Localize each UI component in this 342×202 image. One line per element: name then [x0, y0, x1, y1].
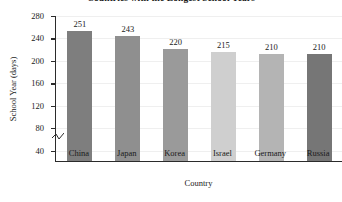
- x-axis-tick-label: Korea: [164, 148, 185, 158]
- gridline: [56, 16, 342, 17]
- gridline: [56, 38, 342, 39]
- bar: 243: [115, 36, 140, 161]
- x-axis-tick-label: Japan: [117, 148, 136, 158]
- y-axis-tick-label: 80: [36, 123, 45, 133]
- bar-value-label: 243: [121, 24, 134, 34]
- bar-value-label: 215: [217, 40, 230, 50]
- y-axis-tick: 40: [51, 151, 56, 152]
- y-axis-tick: 120: [51, 106, 56, 107]
- y-axis-tick-label: 120: [31, 101, 44, 111]
- y-axis-tick-label: 160: [31, 78, 44, 88]
- chart-title: Countries with the Longest School Years: [0, 0, 342, 3]
- bar: 220: [163, 49, 188, 161]
- bar-value-label: 210: [265, 42, 278, 52]
- gridline: [56, 106, 342, 107]
- gridline: [56, 151, 342, 152]
- y-axis-tick-label: 240: [31, 33, 44, 43]
- gridline: [56, 83, 342, 84]
- gridline: [56, 128, 342, 129]
- x-axis-tick-label: Russia: [307, 148, 330, 158]
- bar-value-label: 220: [169, 37, 182, 47]
- y-axis-tick-label: 200: [31, 56, 44, 66]
- x-axis-tick-label: Germany: [254, 148, 286, 158]
- y-axis-tick: 240: [51, 38, 56, 39]
- bar-value-label: 210: [313, 42, 326, 52]
- bar-value-label: 251: [74, 19, 87, 29]
- bar: 210: [259, 54, 284, 161]
- bar: 251: [67, 31, 92, 161]
- y-axis-tick: 160: [51, 83, 56, 84]
- axis-break-icon: [52, 131, 64, 141]
- bar-chart: Countries with the Longest School Years …: [0, 0, 342, 202]
- plot-area: 4080120160200240280 251243220215210210: [55, 16, 342, 162]
- x-axis-tick-label: China: [69, 148, 89, 158]
- y-axis-tick-label: 280: [31, 11, 44, 21]
- y-axis-tick: 280: [51, 16, 56, 17]
- x-axis-tick-label: Israel: [213, 148, 232, 158]
- bar: 215: [211, 52, 236, 162]
- y-axis-label: School Year (days): [8, 24, 18, 154]
- gridline: [56, 61, 342, 62]
- y-axis-tick: 80: [51, 128, 56, 129]
- y-axis-tick: 200: [51, 61, 56, 62]
- x-axis-label: Country: [55, 178, 342, 188]
- bar: 210: [307, 54, 332, 161]
- y-axis-tick-label: 40: [36, 146, 45, 156]
